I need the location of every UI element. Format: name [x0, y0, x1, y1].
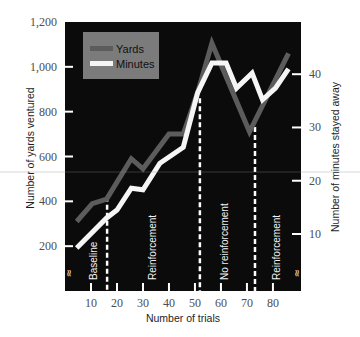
x-axis-tick-label: 60 [215, 296, 227, 310]
line-chart: BaselineReinforcementNo reinforcementRei… [0, 0, 360, 337]
legend-swatch-minutes [90, 61, 113, 66]
x-axis-tick-label: 50 [189, 296, 201, 310]
x-axis-tick-label: 40 [163, 296, 175, 310]
left-y-axis-title: Number of yards ventured [24, 87, 36, 209]
y-axis-tick-label: 800 [39, 105, 57, 119]
legend-label-yards: Yards [116, 43, 144, 55]
phase-label: Baseline [88, 241, 99, 280]
axis-break-icon: ≈ [291, 269, 302, 277]
y2-axis-tick-label: 20 [309, 174, 321, 188]
x-axis-tick-label: 30 [137, 296, 149, 310]
y-axis-tick-label: 200 [39, 239, 57, 253]
phase-label: Reinforcement [147, 215, 158, 280]
y2-axis-tick-label: 40 [309, 67, 321, 81]
y2-axis-tick-label: 10 [309, 227, 321, 241]
x-axis-title: Number of trials [146, 312, 220, 324]
legend-swatch-yards [90, 46, 113, 51]
y-axis-tick-label: 1,000 [30, 60, 57, 74]
x-axis-tick-label: 10 [85, 296, 97, 310]
y2-axis-tick-label: 30 [309, 120, 321, 134]
x-axis-tick-label: 70 [241, 296, 253, 310]
legend: Yards Minutes [83, 32, 159, 79]
y-axis-tick-label: 600 [39, 150, 57, 164]
right-y-axis-title: Number of minutes stayed away [329, 81, 341, 232]
phase-label: Reinforcement [271, 215, 282, 280]
axis-break-icon: ≈ [63, 269, 74, 277]
y-axis-tick-label: 1,200 [30, 15, 57, 29]
x-axis-tick-label: 20 [111, 296, 123, 310]
y-axis-tick-label: 400 [39, 194, 57, 208]
x-axis-tick-label: 80 [267, 296, 279, 310]
legend-label-minutes: Minutes [116, 58, 155, 70]
legend-box [83, 32, 159, 79]
phase-label: No reinforcement [219, 203, 230, 280]
